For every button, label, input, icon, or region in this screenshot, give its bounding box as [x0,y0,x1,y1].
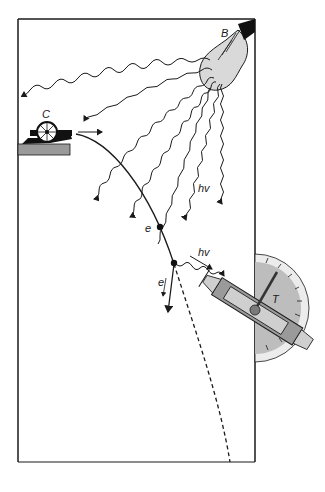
cannon-label: C [42,108,50,120]
scattered-photon [176,256,224,276]
photon-label-hv-2: hv [198,246,211,258]
photon-ray-scattered [158,88,210,244]
cannon-icon: C [18,108,72,155]
photon-ray [94,77,214,199]
photon-ray [221,84,224,204]
electron-dot [157,224,163,230]
collision-point [171,260,177,266]
detector-gauge: T [199,254,316,362]
photon-label-hv-1: hv [198,182,211,194]
photon-ray [185,84,220,220]
photon-ray [84,68,212,121]
electron-label-2: e [158,276,164,288]
electron-trajectory [76,134,174,264]
bulb-label: B [221,27,228,39]
deflected-electron-path [168,264,174,312]
diagram-canvas: B hv hv C e e [0,0,325,492]
electron-label-1: e [145,222,151,234]
